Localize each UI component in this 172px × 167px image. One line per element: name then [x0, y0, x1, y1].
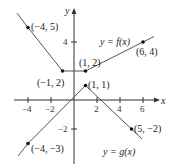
point-f-neg1-2	[61, 69, 65, 73]
tick-x-neg4: −4	[22, 104, 32, 114]
y-axis-arrow-icon	[72, 8, 77, 14]
tick-x-4: 4	[117, 104, 122, 114]
label-f-neg4-5: (−4, 5)	[31, 21, 58, 33]
label-f-1-2: (1, 2)	[79, 57, 101, 69]
point-g-neg4-neg3	[26, 142, 30, 146]
label-f-6-4: (6, 4)	[136, 46, 158, 58]
label-g-neg4-neg3: (−4, −3)	[31, 143, 64, 155]
tick-y-neg2: −2	[58, 124, 68, 134]
tick-x-6: 6	[140, 104, 145, 114]
tick-x-2: 2	[94, 104, 99, 114]
label-g-5-neg2: (5, −2)	[134, 123, 161, 135]
point-f-neg4-5	[26, 26, 30, 30]
x-axis-arrow-icon	[154, 98, 160, 103]
y-axis-label: y	[64, 5, 70, 16]
tick-y-4: 4	[63, 37, 68, 47]
function-graph: x y −4 −2 2 4 6 4 −2 (−4, 5) (−1, 2) (1,…	[0, 0, 172, 167]
x-axis-label: x	[160, 95, 166, 106]
point-g-1-1	[84, 84, 88, 88]
point-f-6-4	[141, 40, 145, 44]
point-g-5-neg2	[130, 127, 134, 131]
label-f-neg1-2: (−1, 2)	[37, 77, 64, 89]
label-g: y = g(x)	[102, 146, 136, 158]
label-g-1-1: (1, 1)	[88, 79, 110, 91]
label-f: y = f(x)	[99, 36, 131, 48]
tick-x-neg2: −2	[45, 104, 55, 114]
point-f-1-2	[84, 69, 88, 73]
